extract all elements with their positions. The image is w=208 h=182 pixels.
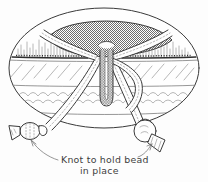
left-caption-arrow bbox=[31, 140, 58, 160]
caption: Knot to hold bead in place bbox=[61, 154, 149, 176]
left-knot bbox=[39, 126, 47, 136]
caption-line-2: in place bbox=[80, 165, 119, 176]
illustration-canvas: Knot to hold bead in place bbox=[0, 0, 208, 182]
caption-line-1: Knot to hold bead bbox=[61, 154, 149, 165]
left-bead bbox=[20, 123, 40, 140]
drawstring-bag-illustration: Knot to hold bead in place bbox=[0, 0, 208, 182]
left-tassel bbox=[9, 126, 20, 140]
left-bead-assembly bbox=[9, 123, 47, 141]
